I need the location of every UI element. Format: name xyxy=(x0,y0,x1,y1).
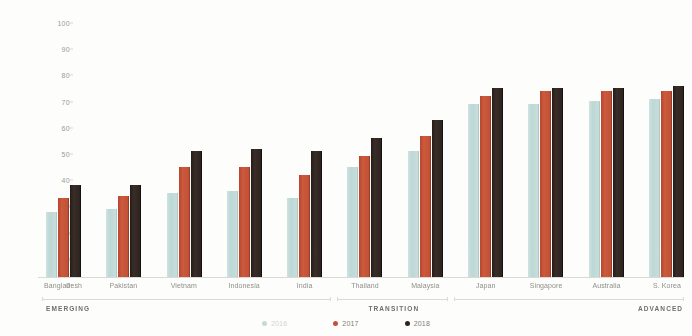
x-axis-label: Australia xyxy=(588,282,626,296)
bar xyxy=(589,101,600,277)
bar xyxy=(251,149,262,277)
bar xyxy=(130,185,141,277)
legend-swatch-icon xyxy=(333,321,338,326)
bar xyxy=(420,136,431,277)
legend-swatch-icon xyxy=(405,321,410,326)
x-axis-label: Indonesia xyxy=(225,282,263,296)
legend-item[interactable]: 2017 xyxy=(333,320,358,327)
group-bracket-label: ADVANCED xyxy=(638,305,683,312)
bar xyxy=(167,193,178,277)
legend-item[interactable]: 2016 xyxy=(262,320,287,327)
bar xyxy=(70,185,81,277)
bar xyxy=(673,86,684,277)
bar xyxy=(46,212,57,278)
bar xyxy=(468,104,479,277)
bar xyxy=(287,198,298,277)
bar xyxy=(359,156,370,277)
group-bracket-label: EMERGING xyxy=(46,305,90,312)
legend-swatch-icon xyxy=(262,321,267,326)
bar xyxy=(552,88,563,277)
axis-baseline xyxy=(38,277,684,278)
bar-group xyxy=(46,15,81,277)
x-axis-label: Malaysia xyxy=(406,282,444,296)
x-axis-label: India xyxy=(286,282,324,296)
chart-legend: 201620172018 xyxy=(0,320,692,327)
bar xyxy=(492,88,503,277)
group-bracket-labels: EMERGINGTRANSITIONADVANCED xyxy=(38,305,688,317)
bar xyxy=(480,96,491,277)
bar xyxy=(106,209,117,277)
bar xyxy=(239,167,250,277)
bar-group xyxy=(347,15,382,277)
group-bracket xyxy=(454,299,684,300)
bar xyxy=(58,198,69,277)
bar xyxy=(408,151,419,277)
x-axis-label: S. Korea xyxy=(648,282,686,296)
x-axis-label: Pakistan xyxy=(104,282,142,296)
bar xyxy=(613,88,624,277)
bar xyxy=(540,91,551,277)
bar-group xyxy=(649,15,684,277)
bar xyxy=(661,91,672,277)
group-bracket xyxy=(337,299,449,300)
bar xyxy=(371,138,382,277)
x-axis-label: Thailand xyxy=(346,282,384,296)
x-axis-label: Singapore xyxy=(527,282,565,296)
x-axis-label: Japan xyxy=(467,282,505,296)
legend-label: 2017 xyxy=(342,320,358,327)
group-bracket-label: TRANSITION xyxy=(368,305,419,312)
group-bracket xyxy=(42,299,331,300)
bar xyxy=(191,151,202,277)
legend-item[interactable]: 2018 xyxy=(405,320,430,327)
bar-group xyxy=(589,15,624,277)
bar-group xyxy=(287,15,322,277)
bar xyxy=(311,151,322,277)
bar-group xyxy=(227,15,262,277)
bar xyxy=(347,167,358,277)
bar xyxy=(649,99,660,277)
bar-group xyxy=(468,15,503,277)
x-axis-labels: BangladeshPakistanVietnamIndonesiaIndiaT… xyxy=(40,282,688,296)
bar-group xyxy=(408,15,443,277)
bar-group xyxy=(167,15,202,277)
bar-group xyxy=(106,15,141,277)
legend-label: 2018 xyxy=(414,320,430,327)
chart-page: 1009080706050403020100 BangladeshPakista… xyxy=(0,0,692,336)
x-axis-label: Bangladesh xyxy=(44,282,82,296)
legend-label: 2016 xyxy=(271,320,287,327)
bar xyxy=(528,104,539,277)
group-brackets xyxy=(38,299,688,301)
bar xyxy=(432,120,443,277)
bar xyxy=(118,196,129,277)
bar-groups xyxy=(40,15,688,277)
x-axis-label: Vietnam xyxy=(165,282,203,296)
bar xyxy=(179,167,190,277)
bar xyxy=(299,175,310,277)
bar xyxy=(227,191,238,277)
bar-group xyxy=(528,15,563,277)
bar xyxy=(601,91,612,277)
